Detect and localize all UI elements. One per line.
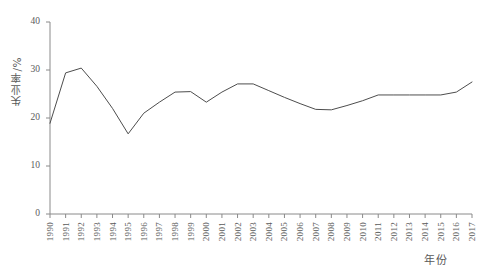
data-series-line [50,68,472,134]
x-tick-marks [50,214,472,218]
unemployment-rate-line-chart: 失业率/% 年份 010203040 199019911992199319941… [0,0,484,277]
y-tick-marks [46,22,50,214]
axis-lines [50,22,472,214]
plot-canvas [0,0,484,277]
